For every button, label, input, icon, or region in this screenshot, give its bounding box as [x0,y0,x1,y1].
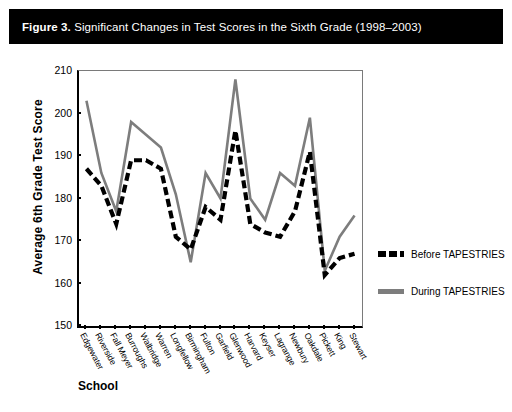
y-tick-label: 160 [54,277,72,289]
chart-legend: Before TAPESTRIESDuring TAPESTRIES [378,248,508,322]
y-axis-tick-labels: 210200190180170160150 [40,70,72,325]
x-tick-mark [189,325,191,329]
x-tick-mark [308,325,310,329]
y-tick-label: 180 [54,192,72,204]
x-tick-mark [353,325,355,329]
figure-title-text: Figure 3. Significant Changes in Test Sc… [9,21,422,33]
chart-area: Average 6th Grade Test Score 21020019018… [0,52,512,412]
y-tick-label: 190 [54,149,72,161]
x-tick-mark [338,325,340,329]
x-tick-mark [144,325,146,329]
figure-root: Figure 3. Significant Changes in Test Sc… [0,0,512,412]
x-tick-mark [293,325,295,329]
x-tick-mark [159,325,161,329]
x-tick-mark [99,325,101,329]
x-tick-mark [174,325,176,329]
x-tick-mark [323,325,325,329]
x-tick-label: Stewart [347,331,369,361]
series-lines [79,71,362,326]
y-tick-label: 170 [54,234,72,246]
y-tick-label: 200 [54,107,72,119]
x-tick-mark [248,325,250,329]
legend-item: Before TAPESTRIES [378,248,508,260]
legend-label: Before TAPESTRIES [411,249,505,260]
legend-swatch [378,289,404,294]
x-tick-mark [219,325,221,329]
x-tick-mark [263,325,265,329]
y-tick-label: 150 [54,319,72,331]
x-tick-mark [84,325,86,329]
x-tick-mark [204,325,206,329]
x-axis-title: School [78,379,118,393]
plot-frame [77,70,363,328]
figure-caption: Significant Changes in Test Scores in th… [74,21,422,33]
figure-title-bar: Figure 3. Significant Changes in Test Sc… [9,9,503,44]
x-tick-mark [233,325,235,329]
legend-item: During TAPESTRIES [378,285,508,297]
figure-number: Figure 3. [22,21,71,33]
x-tick-mark [129,325,131,329]
x-tick-mark [278,325,280,329]
y-tick-label: 210 [54,64,72,76]
x-tick-mark [114,325,116,329]
legend-label: During TAPESTRIES [411,286,505,297]
legend-swatch [378,251,404,257]
